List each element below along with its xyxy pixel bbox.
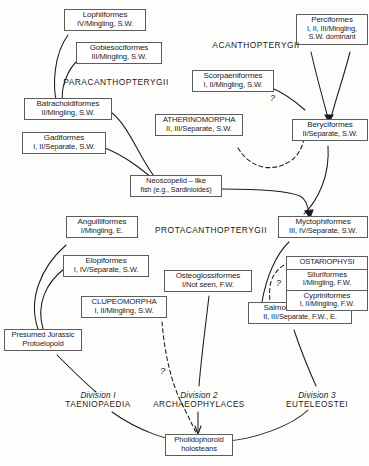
edge-archaeophylaces-arrowhead [195, 426, 201, 434]
question-mark-beryciformes: ? [270, 93, 275, 103]
siluriformes-line2: I/Mingling, F.W. [289, 279, 365, 287]
node-anguilliformes[interactable]: Anguilliformes I/Mingling, E. [66, 216, 138, 238]
label-acanthopterygii: ACANTHOPTERYGII [196, 40, 316, 50]
node-osteoglossiformes[interactable]: Osteoglossiformes I/Not seen, F.W. [164, 270, 252, 292]
node-myctophiformes[interactable]: Myctophiformes III, IV/Separate, S.W. [278, 216, 368, 238]
question-mark-clupeomorpha: ? [160, 365, 165, 376]
label-acanthopterygii-text: ACANTHOPTERYGII [196, 40, 316, 50]
label-division-1: Division I TAENIOPAEDIA [44, 391, 152, 409]
node-gobiesociformes-line2: III/Mingling, S.W. [79, 53, 159, 62]
edge-perciformes-to-beryciformes-right [331, 52, 350, 118]
node-beryciformes-line2: II/Separate, S.W. [295, 130, 365, 138]
node-pholidophoroid-holosteans[interactable]: Pholidophoroid holosteans [165, 434, 233, 456]
node-lophiiformes[interactable]: Lophiiformes IV/Mingling, S.W. [64, 9, 146, 31]
label-division-1-name: TAENIOPAEDIA [44, 400, 152, 409]
edge-scorpaeniformes-to-beryciformes [272, 88, 305, 110]
node-neoscopelid-line2: fish (e.g., Sardinioides) [133, 186, 219, 194]
node-anguilliformes-line2: I/Mingling, E. [69, 227, 135, 236]
edge-dashed-clupeomorpha-to-pholidophoroid [162, 322, 198, 438]
label-paracanthopterygii: PARACANTHOPTERYGII [46, 77, 186, 87]
node-neoscopelid-fish[interactable]: Neoscopelid – like fish (e.g., Sardinioi… [130, 175, 222, 197]
label-division-3: Division 3 EUTELEOSTEI [271, 391, 363, 409]
question-mark-ostariophysi: ? [276, 278, 281, 288]
edge-neoscopelid-to-myctophiformes [222, 189, 309, 214]
node-lophiiformes-line2: IV/Mingling, S.W. [67, 20, 143, 29]
edge-protoelopoid-to-taeniopaedia [57, 355, 96, 392]
node-pholidophoroid-line2: holosteans [168, 445, 230, 454]
node-batrachoidiformes-line2: II/Mingling, S.W. [27, 109, 109, 118]
label-protacanthopterygii-text: PROTACANTHOPTERYGII [146, 225, 276, 235]
edge-batrachoid-to-lophiiformes [55, 35, 68, 104]
node-ostariophysi-group[interactable]: OSTARIOPHYSI Siluriformes I/Mingling, F.… [286, 256, 368, 311]
node-gadiformes-line2: I, II/Separate, S.W. [25, 143, 103, 152]
edge-myctophiformes-to-salmoniformes [262, 242, 289, 302]
ostariophysi-cypriniformes[interactable]: Cypriniformes I, II/Mingling, F.W. [287, 291, 367, 311]
node-beryciformes[interactable]: Beryciformes II/Separate, S.W. [292, 119, 368, 141]
label-division-1-number: Division I [44, 391, 152, 400]
edge-osteoglossiformes-to-archaeophylaces [199, 296, 209, 386]
edge-batrachoid-to-neoscopelid [108, 110, 157, 180]
edge-beryciformes-to-myctophiformes [304, 146, 328, 214]
node-salmoniformes-line2: II, III/Separate, F.W., E. [251, 313, 349, 321]
node-clupeomorpha[interactable]: CLUPEOMORPHA I, II/Mingling, S.W. [81, 296, 167, 318]
node-scorpaeniformes[interactable]: Scorpaeniformes I, II/Mingling, S.W. [192, 70, 274, 92]
ostariophysi-header: OSTARIOPHYSI [287, 257, 367, 270]
node-atherinomorpha-line2: II, III/Separate, S.W. [158, 125, 240, 134]
edge-protoelopoid-to-anguilliformes [34, 245, 66, 329]
node-gadiformes[interactable]: Gadiformes I, II/Separate, S.W. [22, 132, 106, 154]
node-myctophiformes-line2: III, IV/Separate, S.W. [281, 227, 365, 235]
node-presumed-jurassic-protoelopoid[interactable]: Presumed Jurassic Protoelopoid [4, 329, 82, 351]
label-paracanthopterygii-text: PARACANTHOPTERYGII [46, 77, 186, 87]
node-protoelopoid-line2: Protoelopoid [7, 340, 79, 349]
node-elopiformes[interactable]: Elopiformes I, IV/Separate, S.W. [63, 255, 149, 277]
node-atherinomorpha[interactable]: ATHERINOMORPHA II, III/Separate, S.W. [155, 114, 243, 136]
edge-salmoniformes-to-euteleostei [294, 330, 316, 386]
edge-perciformes-to-beryciformes-left [311, 52, 328, 118]
node-elopiformes-line2: I, IV/Separate, S.W. [66, 266, 146, 275]
phylogeny-diagram: Lophiiformes IV/Mingling, S.W. Gobiesoci… [0, 0, 369, 466]
label-protacanthopterygii: PROTACANTHOPTERYGII [146, 225, 276, 235]
node-clupeomorpha-line2: I, II/Mingling, S.W. [84, 307, 164, 316]
label-division-3-name: EUTELEOSTEI [271, 400, 363, 409]
edge-protoelopoid-to-elopiformes [41, 269, 64, 329]
label-division-2-name: ARCHAEOPHYLACES [143, 400, 255, 409]
ostariophysi-siluriformes[interactable]: Siluriformes I/Mingling, F.W. [287, 270, 367, 291]
ostariophysi-header-label: OSTARIOPHYSI [289, 258, 365, 267]
node-osteoglossiformes-line2: I/Not seen, F.W. [167, 281, 249, 290]
edge-euteleostei-to-pholidophoroid [225, 410, 308, 441]
label-division-2: Division 2 ARCHAEOPHYLACES [143, 391, 255, 409]
node-gobiesociformes[interactable]: Gobiesociformes III/Mingling, S.W. [76, 42, 162, 64]
node-batrachoidiformes[interactable]: Batrachoidiformes II/Mingling, S.W. [24, 98, 112, 120]
node-scorpaeniformes-line2: I, II/Mingling, S.W. [195, 81, 271, 90]
label-division-3-number: Division 3 [271, 391, 363, 400]
label-division-2-number: Division 2 [143, 391, 255, 400]
cypriniformes-line2: I, II/Mingling, F.W. [289, 300, 365, 308]
